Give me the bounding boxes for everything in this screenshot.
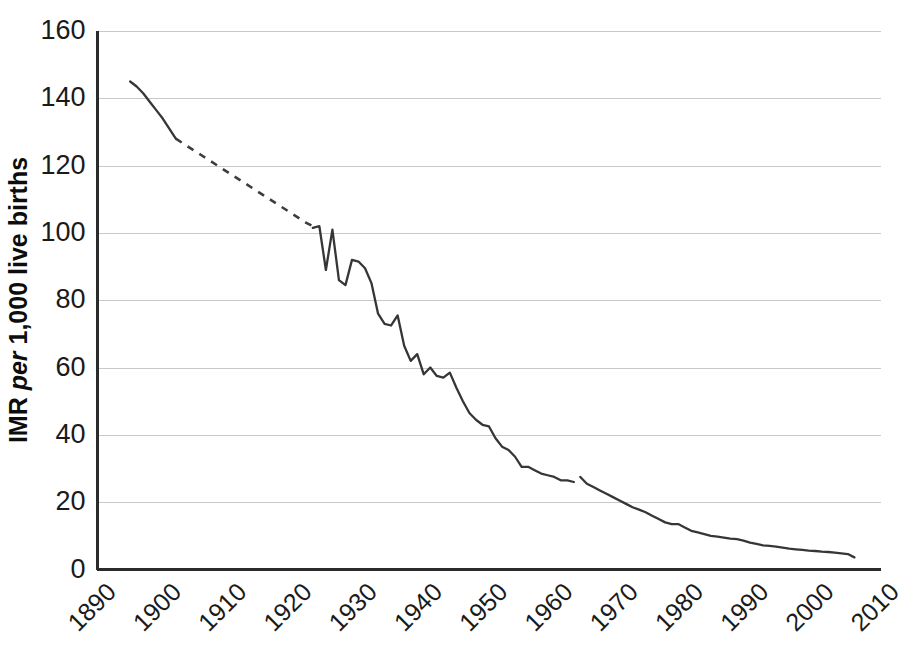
- y-tick-label: 60: [55, 352, 85, 382]
- y-tick-label: 40: [55, 419, 85, 449]
- y-tick-label: 140: [40, 82, 85, 112]
- svg-text:IMR per 1,000 live births: IMR per 1,000 live births: [4, 157, 32, 443]
- imr-line-chart: 020406080100120140160 189019001910192019…: [0, 0, 904, 653]
- y-tick-label: 0: [70, 554, 85, 584]
- y-tick-label: 120: [40, 150, 85, 180]
- y-axis-title: IMR per 1,000 live births: [4, 157, 32, 443]
- y-axis-title-suffix: 1,000 live births: [4, 157, 32, 352]
- y-tick-label: 80: [55, 284, 85, 314]
- y-tick-label: 160: [40, 15, 85, 45]
- y-tick-label: 20: [55, 486, 85, 516]
- y-axis-title-prefix: IMR: [4, 390, 32, 443]
- chart-figure: 020406080100120140160 189019001910192019…: [0, 0, 904, 653]
- chart-background: [0, 0, 904, 653]
- y-tick-label: 100: [40, 217, 85, 247]
- y-axis-title-italic: per: [4, 350, 32, 391]
